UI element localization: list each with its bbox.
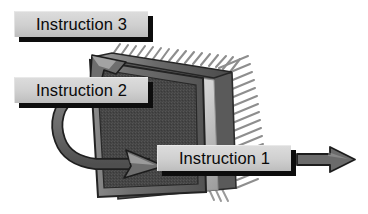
instruction-2-label-text: Instruction 2 — [36, 82, 127, 99]
instruction-3-label-text: Instruction 3 — [36, 16, 127, 33]
instruction-1-label-text: Instruction 1 — [179, 150, 270, 167]
arrow-right-icon — [297, 147, 355, 172]
instruction-1-label: Instruction 1 — [157, 145, 291, 171]
instruction-2-label: Instruction 2 — [14, 77, 148, 103]
figure-canvas: Instruction 3 Instruction 2 Instruction … — [0, 0, 368, 214]
instruction-3-label: Instruction 3 — [14, 11, 148, 37]
